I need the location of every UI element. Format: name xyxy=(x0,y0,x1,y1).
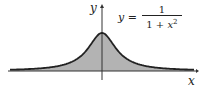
y-axis-label: y xyxy=(90,1,97,15)
equation-fraction: 1 1 + x2 xyxy=(142,4,182,31)
equation-denominator: 1 + x2 xyxy=(146,16,177,31)
denominator-prefix: 1 + xyxy=(146,19,167,30)
x-axis-arrow-icon xyxy=(196,69,199,73)
equation-lhs: y = xyxy=(118,11,137,24)
denominator-exponent: 2 xyxy=(173,18,177,26)
y-axis-arrow-icon xyxy=(100,4,104,8)
equation-label: y = 1 1 + x2 xyxy=(118,4,182,31)
x-axis-label: x xyxy=(188,74,195,88)
equation-numerator: 1 xyxy=(159,4,165,15)
